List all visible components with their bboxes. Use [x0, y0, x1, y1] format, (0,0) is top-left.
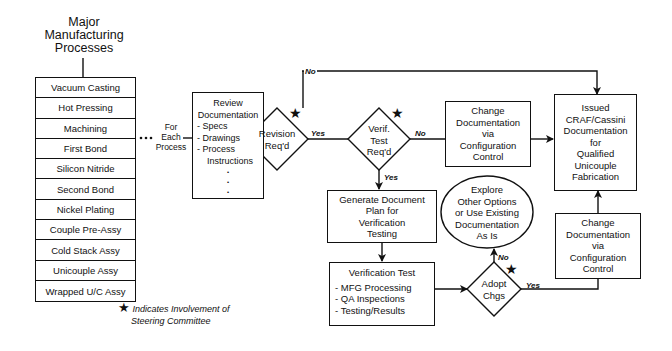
- for-each-process-label: For Each Process: [154, 122, 188, 152]
- process-item: Machining: [36, 119, 135, 139]
- box-line: Documentation: [555, 125, 636, 137]
- review-item: Instructions: [193, 156, 263, 168]
- ellipse-line: or Use Existing: [441, 207, 533, 219]
- box-line: Generate Document: [328, 194, 436, 206]
- process-item: Silicon Nitride: [36, 159, 135, 179]
- ellipse-line: Explore: [441, 184, 533, 196]
- box-line: CRAF/Cassini: [555, 114, 636, 126]
- process-item: Cold Stack Assy: [36, 240, 135, 260]
- box-line: Documentation: [446, 117, 530, 129]
- verif-yes-label: Yes: [384, 172, 398, 183]
- legend: ★ Indicates Involvement of Steering Comm…: [118, 302, 230, 327]
- box-line: via: [446, 128, 530, 140]
- decision-line: Req'd: [355, 146, 403, 158]
- box-item: - QA Inspections: [330, 293, 434, 305]
- steering-star-icon: ★: [391, 106, 404, 120]
- box-line: Testing: [328, 228, 436, 240]
- process-list-title: Major Manufacturing Processes: [28, 16, 140, 55]
- ellipsis-dot: •: [193, 167, 263, 177]
- revision-yes-label: Yes: [311, 128, 325, 139]
- process-item: Hot Pressing: [36, 98, 135, 118]
- decision-line: Chgs: [470, 290, 518, 302]
- ellipse-line: As Is: [441, 230, 533, 242]
- box-item: - Testing/Results: [330, 305, 434, 317]
- box-line: via: [556, 240, 640, 252]
- steering-star-icon: ★: [289, 106, 302, 120]
- issued-documentation-box: Issued CRAF/Cassini Documentation for Qu…: [554, 94, 637, 191]
- adopt-decision-label: Adopt Chgs: [470, 278, 518, 301]
- ellipse-line: Other Options: [441, 196, 533, 208]
- decision-line: Adopt: [470, 278, 518, 290]
- process-list: Vacuum Casting Hot Pressing Machining Fi…: [35, 77, 136, 302]
- title-line: Processes: [28, 42, 140, 55]
- box-line: Control: [446, 151, 530, 163]
- explore-options-label: Explore Other Options or Use Existing Do…: [441, 184, 533, 242]
- box-line: Control: [556, 263, 640, 275]
- box-line: Documentation: [556, 229, 640, 241]
- for-each-line: Process: [154, 142, 188, 152]
- box-title: Verification Test: [330, 267, 434, 279]
- ellipsis-dot: •: [193, 187, 263, 197]
- generate-plan-box: Generate Document Plan for Verification …: [327, 190, 437, 243]
- star-icon: ★: [118, 300, 130, 315]
- box-line: Verification: [328, 217, 436, 229]
- change-documentation-box-top: Change Documentation via Configuration C…: [445, 101, 531, 167]
- box-line: Unicouple: [555, 160, 636, 172]
- decision-line: Req'd: [250, 140, 304, 152]
- change-documentation-box-bottom: Change Documentation via Configuration C…: [555, 213, 641, 279]
- steering-star-icon: ★: [505, 262, 518, 276]
- ellipsis-dot: •: [193, 177, 263, 187]
- review-title-line: Documentation: [193, 110, 263, 122]
- box-line: Change: [446, 105, 530, 117]
- legend-line: Steering Committee: [118, 315, 230, 327]
- decision-line: Revision: [250, 128, 304, 140]
- box-line: Plan for: [328, 205, 436, 217]
- legend-line: Indicates Involvement of: [133, 304, 230, 314]
- process-item: Vacuum Casting: [36, 78, 135, 98]
- verification-test-box: Verification Test - MFG Processing - QA …: [329, 262, 435, 326]
- decision-line: Verif.: [355, 123, 403, 135]
- for-each-line: For: [154, 122, 188, 132]
- for-each-line: Each: [154, 132, 188, 142]
- box-line: Change: [556, 217, 640, 229]
- process-item: First Bond: [36, 139, 135, 159]
- ellipse-line: Documentation: [441, 219, 533, 231]
- box-line: Configuration: [556, 252, 640, 264]
- box-line: Fabrication: [555, 171, 636, 183]
- process-item: Nickel Plating: [36, 200, 135, 220]
- verif-no-label: No: [415, 128, 426, 139]
- adopt-yes-label: Yes: [526, 280, 540, 291]
- process-item: Couple Pre-Assy: [36, 220, 135, 240]
- box-line: for: [555, 137, 636, 149]
- process-item: Second Bond: [36, 179, 135, 199]
- review-title-line: Review: [193, 98, 263, 110]
- revision-no-label: No: [304, 66, 317, 77]
- box-line: Qualified: [555, 148, 636, 160]
- revision-decision-label: Revision Req'd: [250, 128, 304, 151]
- process-item: Unicouple Assy: [36, 261, 135, 281]
- process-item: Wrapped U/C Assy: [36, 281, 135, 301]
- verif-decision-label: Verif. Test Req'd: [355, 123, 403, 158]
- box-line: Issued: [555, 102, 636, 114]
- decision-line: Test: [355, 135, 403, 147]
- box-line: Configuration: [446, 140, 530, 152]
- box-item: - MFG Processing: [330, 282, 434, 294]
